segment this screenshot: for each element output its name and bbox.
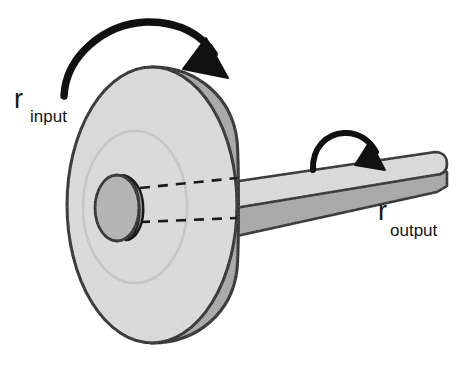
input-arrow-head (183, 38, 228, 78)
wheel-face-ellipse (67, 67, 237, 343)
output-arrow-head (355, 141, 385, 170)
center-hub (95, 175, 143, 241)
wheel-face (67, 67, 237, 343)
label-r-output-base: r (378, 196, 387, 226)
diagram-canvas: r input r output (0, 0, 464, 365)
wheel-and-axle-diagram: r input r output (0, 0, 464, 365)
hub-face (95, 175, 139, 241)
label-r-input: r input (14, 84, 67, 126)
label-r-input-subscript: input (30, 107, 67, 126)
label-r-output-subscript: output (390, 221, 438, 240)
label-r-input-base: r (14, 84, 23, 114)
label-r-output: r output (378, 196, 438, 240)
